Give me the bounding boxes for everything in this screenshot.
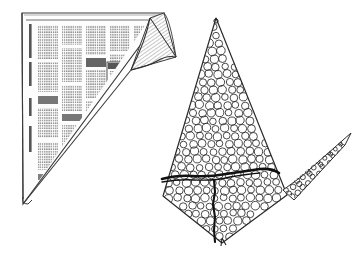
figure-canvas <box>0 0 354 254</box>
scanned-figure: Newspaper page with lower-right corner f… <box>0 0 354 254</box>
